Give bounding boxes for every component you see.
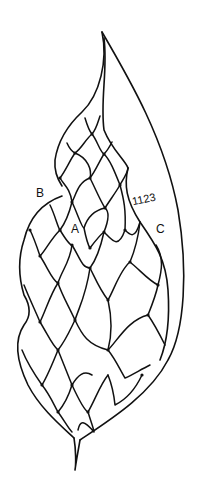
leaf-tip-left [55, 32, 104, 186]
leaf-drawing [0, 0, 197, 492]
leaf-stalk [74, 438, 80, 470]
label-a: A [71, 222, 79, 236]
label-b: B [36, 186, 44, 200]
label-c: C [156, 222, 165, 236]
leaf-sheath-line [103, 38, 128, 168]
cell-junctions [28, 132, 159, 413]
